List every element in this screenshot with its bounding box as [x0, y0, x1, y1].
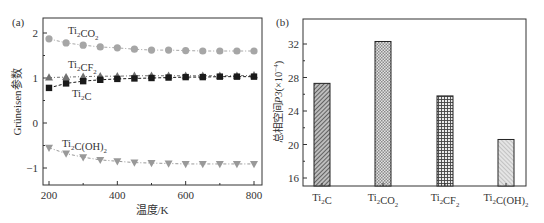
data-point-marker [46, 85, 52, 91]
y-tick-label: 28 [288, 72, 300, 84]
data-point-marker [233, 161, 241, 168]
data-point-marker [250, 161, 258, 168]
y-tick-label: 32 [288, 38, 299, 50]
bar-ti2c [314, 83, 330, 186]
y-axis-label-b: 总相空间P3(×10−4) [272, 60, 285, 143]
y-label-main-b: 总相空间 [272, 103, 284, 143]
data-point-marker [63, 80, 69, 86]
panel-a-grueneisen-chart: (a) 210−1 200400600800 Ti2CO2Ti2CF2Ti2CT… [10, 16, 263, 216]
x-axis-label-a: 温度/K [136, 203, 169, 216]
data-point-marker [80, 42, 87, 49]
data-point-marker [45, 35, 52, 42]
data-point-marker [114, 44, 121, 51]
plot-frame-b [303, 19, 526, 186]
data-point-marker [148, 75, 154, 81]
data-point-marker [217, 73, 223, 79]
x-tick-label: 200 [41, 189, 58, 201]
y-tick-label: 1 [33, 72, 39, 84]
data-point-marker [97, 43, 104, 50]
data-point-marker [182, 47, 189, 54]
y-tick-label: 16 [288, 172, 300, 184]
data-point-marker [79, 154, 87, 161]
panel-b-phase-space-chart: (b) 3228242016 Ti2CTi2CO2Ti2CF2Ti2C(OH)2… [272, 16, 529, 208]
data-point-marker [131, 46, 138, 53]
x-tick-label: 400 [109, 189, 126, 201]
y-tick-label: 0 [33, 117, 39, 129]
data-point-marker [216, 47, 223, 54]
data-point-marker [250, 47, 257, 54]
data-point-marker [114, 76, 120, 82]
data-point-marker [97, 77, 103, 83]
y-label-unit-b: (×10 [273, 72, 285, 92]
plot-frame-a [43, 18, 262, 185]
data-point-marker [199, 161, 207, 168]
bar-ti2co2 [375, 41, 391, 186]
y-axis-ticks-b: 3228242016 [288, 38, 307, 184]
y-tick-label: 24 [288, 105, 300, 117]
data-point-marker [234, 73, 240, 79]
data-point-marker [131, 75, 137, 81]
data-point-marker [45, 73, 53, 80]
data-point-marker [165, 161, 173, 168]
bar-ti2coh2 [498, 139, 514, 186]
x-axis-ticks-a: 200400600800 [41, 181, 263, 201]
data-point-marker [182, 161, 190, 168]
y-label-close-b: ) [273, 60, 285, 64]
bar-ti2cf2 [437, 96, 453, 186]
data-point-marker [165, 47, 172, 54]
category-labels-b: Ti2CTi2CO2Ti2CF2Ti2C(OH)2 [312, 192, 529, 208]
data-point-marker [130, 160, 138, 167]
category-label-ti2coh2: Ti2C(OH)2 [484, 192, 530, 208]
y-tick-label: −1 [26, 162, 38, 174]
data-point-marker [216, 161, 224, 168]
x-tick-label: 600 [177, 189, 194, 201]
data-point-marker [80, 78, 86, 84]
series-label-ti2co2: Ti2CO2 [68, 25, 99, 41]
y-tick-label: 20 [288, 139, 300, 151]
data-point-marker [148, 47, 155, 54]
series-label-ti2cf2: Ti2CF2 [68, 59, 97, 75]
data-point-marker [233, 47, 240, 54]
data-point-marker [62, 39, 69, 46]
data-point-marker [148, 160, 156, 167]
data-point-marker [165, 74, 171, 80]
category-label-ti2cf2: Ti2CF2 [431, 192, 460, 208]
data-point-marker [251, 73, 257, 79]
panel-label-b: (b) [276, 16, 289, 29]
series-ti2co2 [45, 35, 257, 54]
category-label-ti2co2: Ti2CO2 [368, 192, 399, 208]
data-point-marker [199, 47, 206, 54]
series-label-ti2c: Ti2C [72, 88, 91, 102]
bars-group-b [314, 41, 514, 186]
y-axis-label-a: Grüneisen参数 [10, 68, 23, 135]
data-point-marker [182, 74, 188, 80]
category-label-ti2c: Ti2C [312, 192, 331, 206]
panel-label-a: (a) [12, 16, 25, 29]
y-label-var-b: P3 [273, 92, 284, 105]
data-point-marker [62, 73, 70, 80]
x-tick-label: 800 [246, 189, 263, 201]
y-tick-label: 2 [33, 27, 39, 39]
y-axis-ticks-a: 210−1 [26, 27, 47, 174]
data-point-marker [96, 157, 104, 164]
data-point-marker [62, 151, 70, 158]
figure: (a) 210−1 200400600800 Ti2CO2Ti2CF2Ti2CT… [0, 0, 544, 223]
data-point-marker [200, 74, 206, 80]
